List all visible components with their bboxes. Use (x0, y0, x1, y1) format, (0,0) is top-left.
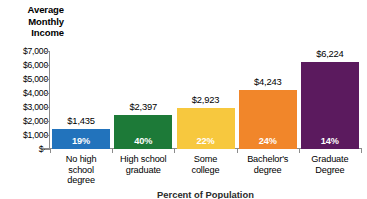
x-axis-tick (361, 148, 362, 153)
bar-chart: Average Monthly Income $7,000$6,000$5,00… (0, 0, 367, 199)
bar-value-label: $4,243 (254, 77, 281, 87)
bar-value-label: $1,435 (67, 116, 94, 126)
x-axis-category-label-line: degree (50, 175, 112, 186)
x-axis-tick (237, 148, 238, 153)
x-axis-category-label-line: degree (237, 165, 299, 176)
x-axis-tick (174, 148, 175, 153)
y-axis-title-line-1: Average (2, 4, 64, 16)
x-axis-category-label: Bachelor'sdegree (237, 154, 299, 175)
bar-percent-label: 40% (114, 136, 172, 146)
bar-percent-label: 22% (177, 136, 235, 146)
y-axis-tick (45, 121, 50, 122)
y-axis-tick-label: $– (0, 145, 48, 154)
x-axis-tick (112, 148, 113, 153)
bar[interactable]: $6,22414% (301, 62, 359, 149)
bar[interactable]: $4,24324% (239, 90, 297, 149)
y-axis-tick (45, 79, 50, 80)
y-axis-tick-label: $1,000 (0, 131, 48, 140)
bar[interactable]: $2,39740% (114, 115, 172, 149)
x-axis-category-label-line: school (50, 165, 112, 176)
y-axis-tick (45, 135, 50, 136)
x-axis-category-label-line: No high (50, 154, 112, 165)
y-axis-tick-label: $4,000 (0, 89, 48, 98)
plot-area: $1,43519%$2,39740%$2,92322%$4,24324%$6,2… (50, 51, 361, 149)
y-axis-tick (45, 65, 50, 66)
bar-value-label: $2,923 (192, 95, 219, 105)
y-axis-tick-label: $3,000 (0, 103, 48, 112)
y-axis-tick (45, 51, 50, 52)
y-axis-tick (45, 107, 50, 108)
bar[interactable]: $1,43519% (52, 129, 110, 149)
x-axis-category-label-line: Graduate (299, 154, 361, 165)
y-axis-tick (45, 93, 50, 94)
bar-percent-label: 24% (239, 136, 297, 146)
y-axis-title-line-3: Income (2, 27, 64, 39)
x-axis-category-label: Somecollege (174, 154, 236, 175)
x-axis-category-label: High schoolgraduate (112, 154, 174, 175)
y-axis-tick-label: $5,000 (0, 75, 48, 84)
bar-value-label: $6,224 (316, 49, 343, 59)
x-axis-title: Percent of Population (50, 190, 361, 199)
x-axis-category-label: No highschooldegree (50, 154, 112, 186)
y-axis-tick-label: $2,000 (0, 117, 48, 126)
bar[interactable]: $2,92322% (177, 108, 235, 149)
x-axis-tick (299, 148, 300, 153)
x-axis-category-label-line: Bachelor's (237, 154, 299, 165)
x-axis-category-label-line: Some (174, 154, 236, 165)
y-axis-title-line-2: Monthly (2, 16, 64, 28)
y-axis-title: Average Monthly Income (2, 4, 64, 39)
x-axis-tick (50, 148, 51, 153)
y-axis-tick-label: $6,000 (0, 61, 48, 70)
y-axis-tick-labels: $7,000$6,000$5,000$4,000$3,000$2,000$1,0… (0, 47, 48, 150)
bar-value-label: $2,397 (130, 102, 157, 112)
x-axis-category-label: GraduateDegree (299, 154, 361, 175)
bar-percent-label: 19% (52, 136, 110, 146)
x-axis-category-label-line: college (174, 165, 236, 176)
bar-percent-label: 14% (301, 136, 359, 146)
x-axis-category-label-line: Degree (299, 165, 361, 176)
x-axis-category-label-line: High school (112, 154, 174, 165)
y-axis-tick-label: $7,000 (0, 47, 48, 56)
x-axis-category-label-line: graduate (112, 165, 174, 176)
